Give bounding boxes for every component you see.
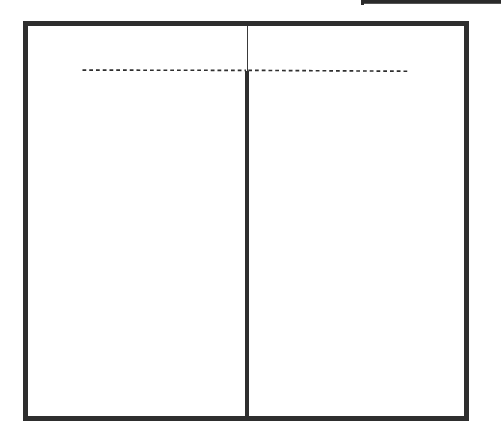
dashed-separator-right	[248, 70, 409, 71]
column-divider-header	[247, 26, 248, 71]
partial-frame-top-edge	[361, 0, 501, 4]
partial-frame-corner	[361, 0, 364, 5]
header-separator-dashed	[28, 69, 464, 72]
column-divider-body	[245, 71, 249, 416]
